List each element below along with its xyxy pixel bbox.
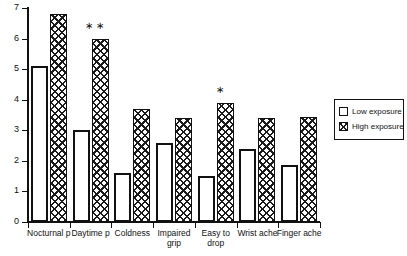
- legend-item-high: High exposure: [339, 119, 400, 134]
- x-category-label-line: Finger ache: [274, 228, 324, 238]
- y-tick-label: 1: [4, 186, 19, 195]
- bar-high-exposure: [300, 117, 317, 222]
- legend-item-low: Low exposure: [339, 104, 400, 119]
- bar-low-exposure: [73, 130, 90, 222]
- y-tick-label: 6: [4, 34, 19, 43]
- legend: Low exposure High exposure: [334, 99, 404, 140]
- bar-high-exposure: [92, 39, 109, 222]
- y-tick-label: 0: [4, 217, 19, 226]
- plot-bars: ∗ ∗∗: [28, 8, 320, 222]
- legend-label-high: High exposure: [352, 122, 404, 131]
- bar-high-exposure: [50, 14, 67, 222]
- legend-swatch-high-icon: [339, 122, 348, 131]
- legend-label-low: Low exposure: [352, 107, 402, 116]
- legend-swatch-low-icon: [339, 107, 348, 116]
- bar-high-exposure: [258, 118, 275, 222]
- bar-low-exposure: [156, 143, 173, 222]
- bar-low-exposure: [114, 173, 131, 222]
- y-tick-label: 7: [4, 3, 19, 12]
- bar-low-exposure: [239, 149, 256, 222]
- x-category-label: Finger ache: [274, 228, 324, 238]
- bar-high-exposure: [175, 118, 192, 222]
- bar-low-exposure: [31, 66, 48, 222]
- bar-low-exposure: [281, 165, 298, 222]
- x-axis-labels: Nocturnal pDaytime pColdnessImpairedgrip…: [28, 228, 320, 256]
- y-tick-label: 2: [4, 156, 19, 165]
- significance-asterisk: ∗ ∗: [74, 21, 116, 31]
- y-tick-label: 4: [4, 95, 19, 104]
- y-tick-label: 3: [4, 125, 19, 134]
- bar-chart: 01234567 ∗ ∗∗ Nocturnal pDaytime pColdne…: [0, 0, 407, 256]
- bar-low-exposure: [198, 176, 215, 222]
- bar-high-exposure: [133, 109, 150, 222]
- bar-high-exposure: [217, 103, 234, 222]
- x-category-label-line: drop: [191, 238, 241, 248]
- significance-asterisk: ∗: [199, 85, 241, 95]
- y-tick-label: 5: [4, 64, 19, 73]
